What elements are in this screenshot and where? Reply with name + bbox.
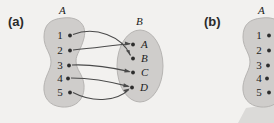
element-dot-b2 — [267, 49, 271, 53]
element-label-b4: 4 — [256, 72, 262, 84]
element-dot-bA — [131, 43, 135, 47]
element-label-a2: 2 — [57, 44, 63, 56]
element-dot-a2 — [68, 49, 72, 53]
element-label-a1: 1 — [57, 29, 63, 41]
element-dot-bD — [130, 86, 134, 90]
element-label-bC: C — [141, 66, 149, 78]
element-dot-b3 — [266, 64, 270, 68]
element-dot-a1 — [68, 34, 72, 38]
element-label-b3: 3 — [256, 59, 262, 71]
element-label-b5: 5 — [256, 86, 262, 98]
element-dot-bC — [131, 71, 135, 75]
element-dot-a5 — [68, 91, 72, 95]
set-b-name-panel-a: B — [136, 15, 143, 27]
element-label-a4: 4 — [57, 72, 63, 84]
element-dot-b4 — [265, 77, 269, 81]
set-a-name-panel-b: A — [257, 4, 265, 16]
panel-a-label: (a) — [8, 14, 24, 29]
element-dot-bB — [131, 57, 135, 61]
element-label-b1: 1 — [256, 29, 262, 41]
element-label-bB: B — [141, 52, 148, 64]
function-mapping-figure: (a) A B 1 2 3 4 5 A B C — [0, 0, 274, 123]
set-a-name-panel-a: A — [58, 4, 66, 16]
element-dot-a3 — [67, 64, 71, 68]
panel-b-label: (b) — [204, 14, 221, 29]
element-dot-a4 — [66, 77, 70, 81]
element-label-bD: D — [139, 81, 148, 93]
element-dot-b5 — [267, 91, 271, 95]
element-label-a3: 3 — [57, 59, 63, 71]
element-dot-b1 — [267, 34, 271, 38]
element-label-bA: A — [140, 38, 148, 50]
element-label-b2: 2 — [256, 44, 262, 56]
element-label-a5: 5 — [57, 86, 63, 98]
